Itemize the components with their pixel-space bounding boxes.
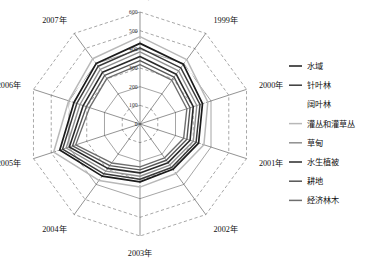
category-label-2001年: 2001年 xyxy=(259,158,283,168)
legend-item-水生植被[interactable]: 水生植被 xyxy=(289,157,339,167)
series-paths xyxy=(54,37,208,187)
category-year-labels: 1998年1999年2000年2001年2002年2003年2004年2005年… xyxy=(0,0,283,258)
radar-chart-figure: 0100200300400500600 1998年1999年2000年2001年… xyxy=(0,0,367,258)
legend-item-针叶林[interactable]: 针叶林 xyxy=(289,80,331,90)
category-label-2006年: 2006年 xyxy=(0,80,21,90)
legend-item-label: 灌丛和灌草丛 xyxy=(307,119,355,129)
radial-tick-label-200: 200 xyxy=(129,84,138,90)
legend-item-label: 耕地 xyxy=(307,176,323,186)
radial-tick-labels: 0100200300400500600 xyxy=(129,9,138,127)
category-label-2003年: 2003年 xyxy=(128,248,152,258)
category-label-1999年: 1999年 xyxy=(213,15,237,25)
legend-item-草甸[interactable]: 草甸 xyxy=(289,138,323,148)
radar-chart-svg: 0100200300400500600 1998年1999年2000年2001年… xyxy=(0,0,367,258)
series-polygon-3 xyxy=(54,37,208,187)
legend-item-阔叶林[interactable]: 阔叶林 xyxy=(307,99,331,109)
radial-tick-label-500: 500 xyxy=(129,28,138,34)
legend-item-label: 经济林木 xyxy=(307,195,339,205)
category-label-1998年: 1998年 xyxy=(128,0,152,1)
category-label-2000年: 2000年 xyxy=(259,80,283,90)
radial-tick-label-400: 400 xyxy=(129,46,138,52)
category-label-2005年: 2005年 xyxy=(0,158,21,168)
legend[interactable]: 水域针叶林阔叶林灌丛和灌草丛草甸水生植被耕地经济林木 xyxy=(289,61,355,205)
legend-item-label: 草甸 xyxy=(307,138,323,148)
category-label-2004年: 2004年 xyxy=(42,224,66,234)
legend-item-水域[interactable]: 水域 xyxy=(289,61,323,71)
radial-tick-label-300: 300 xyxy=(129,65,138,71)
radial-tick-label-0: 0 xyxy=(135,121,138,127)
legend-item-灌丛和灌草丛[interactable]: 灌丛和灌草丛 xyxy=(289,119,355,129)
radial-tick-label-100: 100 xyxy=(129,102,138,108)
category-label-2007年: 2007年 xyxy=(42,15,66,25)
series-polygon-7 xyxy=(76,65,187,167)
legend-item-label: 针叶林 xyxy=(307,80,331,90)
legend-item-label: 水域 xyxy=(307,61,323,71)
radial-tick-label-600: 600 xyxy=(129,9,138,15)
legend-item-label: 阔叶林 xyxy=(307,99,331,109)
category-label-2002年: 2002年 xyxy=(213,224,237,234)
series-polygon-5 xyxy=(69,56,193,172)
legend-item-经济林木[interactable]: 经济林木 xyxy=(289,195,339,205)
axis-spoke-2004年 xyxy=(74,124,140,215)
series-polygon-6 xyxy=(73,61,191,170)
legend-item-耕地[interactable]: 耕地 xyxy=(289,176,323,186)
legend-item-label: 水生植被 xyxy=(307,157,339,167)
